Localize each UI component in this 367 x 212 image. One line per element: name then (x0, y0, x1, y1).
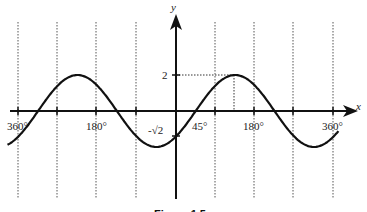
tick-label-45: 45° (192, 120, 207, 132)
figure-caption: Figure 1.5 (154, 208, 206, 212)
tick-label-neg360: 360° (7, 120, 28, 132)
peak-guides (176, 75, 234, 111)
tick-label-360: 360° (322, 120, 343, 132)
y-label-2: 2 (162, 69, 168, 81)
y-label-neg-root2: -√2 (148, 124, 163, 136)
x-axis-label: x (355, 100, 361, 112)
tick-label-neg180: 180° (86, 120, 107, 132)
sine-graph: x y 360° 180° 45° 180° 360° 2 -√2 Figure… (0, 0, 367, 212)
tick-label-180: 180° (243, 120, 264, 132)
y-axis-label: y (170, 1, 176, 13)
